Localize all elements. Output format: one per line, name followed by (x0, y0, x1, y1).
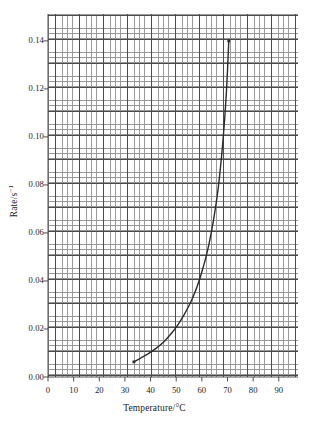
x-tick-label: 90 (266, 385, 292, 395)
x-tick-label: 0 (35, 385, 61, 395)
x-tick-label: 40 (138, 385, 164, 395)
y-tick-label: 0.04 (10, 276, 44, 285)
y-axis-title-exponent: −1 (7, 185, 15, 193)
y-tick-label: 0.10 (10, 132, 44, 141)
x-tick-label: 80 (240, 385, 266, 395)
y-tick-label: 0.12 (10, 84, 44, 93)
x-tick-label: 30 (112, 385, 138, 395)
y-tick-label: 0.00 (10, 373, 44, 382)
chart-figure: 0.000.020.040.060.080.100.120.14 0102030… (0, 0, 309, 427)
y-tick-label: 0.02 (10, 324, 44, 333)
major-gridlines (48, 14, 298, 377)
x-tick-label: 10 (61, 385, 87, 395)
x-tick-label: 50 (163, 385, 189, 395)
y-axis-title-base: Rate/s (9, 193, 19, 218)
y-axis-title: Rate/s−1 (9, 151, 19, 251)
x-axis-title: Temperature/°C (0, 403, 309, 413)
x-axis-tick-labels: 0102030405060708090 (0, 385, 309, 399)
x-tick-label: 20 (86, 385, 112, 395)
x-tick-label: 60 (189, 385, 215, 395)
x-tick-label: 70 (214, 385, 240, 395)
plot-area (48, 14, 298, 377)
y-tick-label: 0.14 (10, 36, 44, 45)
